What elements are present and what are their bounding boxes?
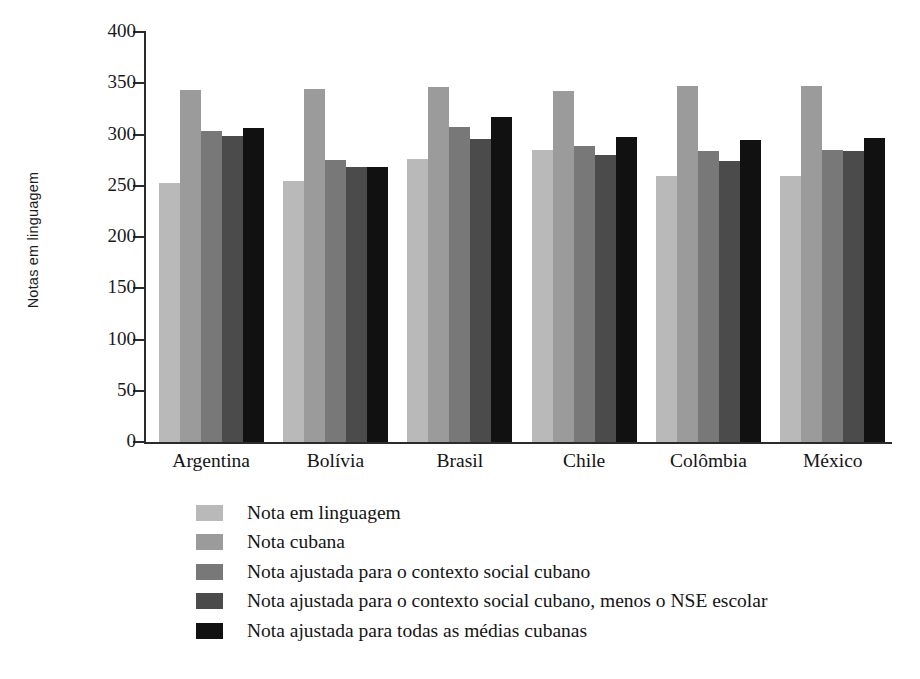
legend-item: Nota ajustada para o contexto social cub… [196,558,896,585]
bar [304,89,325,442]
bar [367,167,388,442]
bar [864,138,885,442]
legend-label: Nota ajustada para o contexto social cub… [247,561,590,583]
bar [780,176,801,443]
bar [616,137,637,442]
bar-group-chile: Chile [532,32,637,442]
bar [698,151,719,442]
bar [449,127,470,442]
bar [574,146,595,442]
bar [677,86,698,442]
bar-chart-figure: Notas em linguagem 050100150200250300350… [0,0,920,679]
legend-item: Nota ajustada para todas as médias cuban… [196,617,896,644]
bar [822,150,843,442]
bar-group-colômbia: Colômbia [656,32,761,442]
bar [843,151,864,442]
bar [532,150,553,442]
bar-group-argentina: Argentina [159,32,264,442]
y-tick-label: 350 [108,72,137,92]
bar [428,87,449,442]
bar [595,155,616,442]
bar-group-brasil: Brasil [407,32,512,442]
bar [180,90,201,442]
legend-label: Nota em linguagem [247,502,401,524]
bar [325,160,346,442]
y-tick-label: 250 [108,175,137,195]
bar [222,136,243,442]
bar [201,131,222,442]
legend-swatch [196,505,223,521]
legend-label: Nota ajustada para todas as médias cuban… [247,620,587,642]
bar-group-méxico: México [780,32,885,442]
y-tick-label: 0 [127,431,137,451]
bar-group-bolívia: Bolívia [283,32,388,442]
bar [470,139,491,442]
y-tick-label: 100 [108,329,137,349]
bar [243,128,264,442]
plot-area: 050100150200250300350400 ArgentinaBolívi… [144,32,892,444]
bar [159,183,180,442]
legend-swatch [196,623,223,639]
legend-item: Nota ajustada para o contexto social cub… [196,588,896,615]
legend-swatch [196,534,223,550]
bar [407,159,428,442]
y-tick-label: 50 [117,380,136,400]
bar [553,91,574,442]
legend-label: Nota ajustada para o contexto social cub… [247,590,767,612]
y-axis-title: Notas em linguagem [25,145,41,335]
y-tick-label: 200 [108,226,137,246]
bar [491,117,512,442]
y-tick-label: 300 [108,124,137,144]
x-axis-line [144,442,892,444]
legend-item: Nota em linguagem [196,499,896,526]
bar [346,167,367,442]
bar [740,140,761,442]
bar-groups: ArgentinaBolíviaBrasilChileColômbiaMéxic… [146,32,892,442]
bar [801,86,822,442]
bar [719,161,740,442]
bar [656,176,677,443]
chart-legend: Nota em linguagemNota cubanaNota ajustad… [196,499,896,647]
legend-label: Nota cubana [247,531,345,553]
legend-swatch [196,593,223,609]
legend-item: Nota cubana [196,529,896,556]
bar [283,181,304,442]
x-axis-label: México [743,450,920,472]
y-tick-label: 150 [108,277,137,297]
legend-swatch [196,564,223,580]
y-tick-label: 400 [108,21,137,41]
